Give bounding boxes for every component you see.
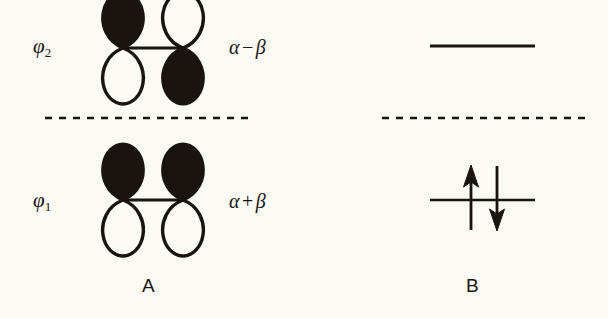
- mo-label-phi1: φ1: [33, 190, 51, 213]
- energy-label-antibonding: α−β: [229, 37, 266, 57]
- alpha-symbol: α: [229, 190, 240, 212]
- panel-a: φ2 φ1 α−β α+β: [0, 0, 304, 318]
- beta-symbol: β: [256, 190, 266, 212]
- mo-subscript: 1: [45, 199, 52, 214]
- panel-b: [304, 0, 608, 318]
- energy-label-bonding: α+β: [229, 191, 266, 211]
- molecular-orbital-figure: φ2 φ1 α−β α+β A B: [0, 0, 608, 318]
- beta-symbol: β: [256, 36, 266, 58]
- energy-operator: −: [240, 36, 256, 58]
- panel-caption-b: B: [466, 276, 479, 295]
- mo-label-phi2: φ2: [33, 36, 51, 59]
- alpha-symbol: α: [229, 36, 240, 58]
- mo-symbol: φ: [33, 188, 45, 212]
- energy-operator: +: [240, 190, 256, 212]
- mo-symbol: φ: [33, 34, 45, 58]
- panel-caption-a: A: [142, 276, 155, 295]
- mo-subscript: 2: [45, 45, 52, 60]
